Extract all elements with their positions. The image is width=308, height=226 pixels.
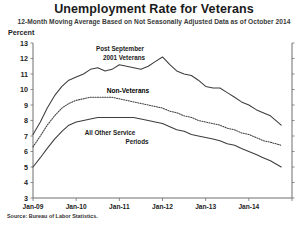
svg-text:10: 10: [20, 85, 28, 94]
svg-text:4: 4: [24, 178, 28, 187]
svg-text:Post September: Post September: [96, 45, 144, 53]
svg-text:Jan-11: Jan-11: [109, 203, 130, 210]
svg-text:3: 3: [24, 194, 28, 203]
chart-container: Unemployment Rate for Veterans 12-Month …: [0, 0, 308, 226]
svg-text:2001 Veterans: 2001 Veterans: [103, 54, 146, 61]
series-annotations: Post September2001 VeteransNon-VeteransA…: [85, 45, 150, 145]
svg-text:All Other Service: All Other Service: [85, 129, 136, 136]
svg-text:12: 12: [20, 54, 28, 63]
x-axis: Jan-09Jan-10Jan-11Jan-12Jan-13Jan-14: [23, 198, 292, 210]
svg-text:Jan-14: Jan-14: [238, 203, 259, 210]
svg-text:11: 11: [20, 70, 28, 79]
y-axis: 345678910111213: [20, 39, 295, 203]
svg-text:9: 9: [24, 101, 28, 110]
svg-text:Jan-13: Jan-13: [195, 203, 216, 210]
svg-text:7: 7: [24, 132, 28, 141]
svg-text:5: 5: [24, 163, 28, 172]
svg-text:Jan-09: Jan-09: [23, 203, 44, 210]
chart-plot-area: 345678910111213 Jan-09Jan-10Jan-11Jan-12…: [0, 0, 308, 226]
svg-text:Periods: Periods: [125, 138, 149, 145]
svg-text:13: 13: [20, 39, 28, 48]
series-lines: [33, 57, 281, 167]
svg-text:Jan-12: Jan-12: [152, 203, 173, 210]
svg-text:8: 8: [24, 116, 28, 125]
source-note: Source: Bureau of Labor Statistics.: [7, 213, 98, 219]
svg-text:6: 6: [24, 147, 28, 156]
svg-text:Non-Veterans: Non-Veterans: [107, 87, 150, 94]
svg-text:Jan-10: Jan-10: [66, 203, 87, 210]
